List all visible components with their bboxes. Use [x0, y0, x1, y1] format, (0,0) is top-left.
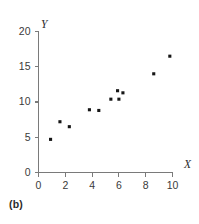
- y-axis-label: Y: [41, 18, 49, 30]
- data-point-9: [152, 72, 155, 75]
- data-point-7: [116, 89, 119, 92]
- y-tick-label-20: 20: [19, 25, 31, 37]
- data-point-10: [168, 55, 171, 58]
- data-point-4: [97, 109, 100, 112]
- y-tick-label-5: 5: [25, 131, 31, 143]
- x-tick-label-6: 6: [116, 179, 122, 191]
- panel-label: (b): [9, 198, 23, 210]
- y-tick-label-10: 10: [19, 95, 31, 107]
- data-point-6: [117, 98, 120, 101]
- x-tick-label-8: 8: [143, 179, 149, 191]
- ticks-group: [35, 32, 173, 177]
- scatter-chart-svg: 051015200246810 Y X: [0, 0, 199, 195]
- data-points-group: [49, 55, 171, 141]
- x-tick-label-0: 0: [36, 179, 42, 191]
- axis-lines: [39, 32, 173, 173]
- scatter-plot-figure: 051015200246810 Y X (b): [0, 0, 199, 224]
- x-tick-label-4: 4: [89, 179, 95, 191]
- y-tick-label-0: 0: [25, 166, 31, 178]
- data-point-2: [68, 125, 71, 128]
- plot-area: 051015200246810 Y X: [0, 0, 199, 195]
- x-tick-label-10: 10: [167, 179, 179, 191]
- x-tick-label-2: 2: [62, 179, 68, 191]
- data-point-0: [49, 138, 52, 141]
- x-axis-label: X: [183, 158, 192, 170]
- data-point-1: [58, 120, 61, 123]
- data-point-3: [88, 108, 91, 111]
- data-point-8: [121, 91, 124, 94]
- tick-labels-group: 051015200246810: [19, 25, 179, 191]
- data-point-5: [109, 98, 112, 101]
- axes-group: [39, 32, 173, 173]
- y-tick-label-15: 15: [19, 60, 31, 72]
